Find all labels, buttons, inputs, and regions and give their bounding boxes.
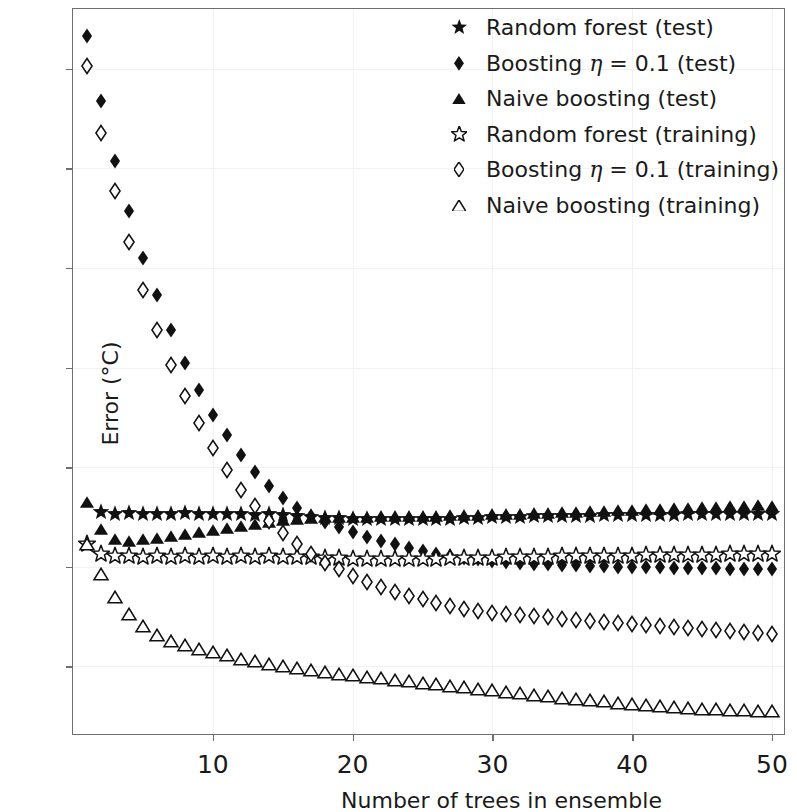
data-point — [166, 323, 176, 338]
data-point — [555, 507, 569, 519]
data-point — [318, 512, 332, 524]
data-point — [431, 546, 441, 561]
data-point — [152, 288, 162, 303]
data-point — [707, 506, 724, 523]
data-point — [138, 283, 148, 298]
data-point — [332, 511, 346, 523]
data-point — [417, 592, 427, 607]
data-point — [526, 548, 543, 565]
data-point — [711, 623, 721, 638]
data-point — [415, 510, 429, 522]
data-point — [557, 557, 567, 572]
data-point — [306, 508, 316, 523]
data-point — [218, 506, 235, 523]
data-point — [166, 357, 176, 372]
data-point — [220, 650, 234, 662]
x-tick-label: 30 — [452, 750, 532, 779]
data-point — [148, 505, 165, 522]
data-point — [374, 511, 388, 523]
legend-item-label: Naive boosting (test) — [486, 86, 717, 111]
data-point — [96, 94, 106, 109]
chart-legend: Random forest (test) Boosting η = 0.1 (t… — [432, 10, 784, 223]
data-point — [304, 513, 318, 525]
data-point — [401, 510, 415, 522]
data-point — [122, 608, 136, 620]
star-filled-icon — [432, 19, 486, 36]
data-point — [386, 510, 403, 527]
triangle-open-icon — [432, 200, 486, 211]
data-point — [194, 382, 204, 397]
data-point — [725, 624, 735, 639]
data-point — [400, 511, 417, 528]
data-point — [569, 693, 583, 705]
gridline-horizontal — [73, 368, 784, 369]
legend-item: Boosting η = 0.1 (test) — [432, 46, 784, 82]
data-point — [709, 703, 723, 715]
data-point — [389, 537, 399, 552]
data-point — [176, 548, 193, 565]
data-point — [711, 561, 721, 576]
data-point — [417, 543, 427, 558]
data-point — [318, 666, 332, 678]
data-point — [637, 506, 654, 523]
data-point — [403, 588, 413, 603]
data-point — [515, 608, 525, 623]
data-point — [164, 636, 178, 648]
data-point — [679, 506, 696, 523]
data-point — [651, 547, 668, 564]
data-point — [292, 500, 302, 515]
data-point — [753, 562, 763, 577]
data-point — [737, 500, 751, 512]
data-point — [610, 547, 627, 564]
data-point — [276, 515, 290, 527]
data-point — [292, 537, 302, 552]
data-point — [152, 323, 162, 338]
data-point — [262, 516, 276, 528]
data-point — [723, 501, 737, 513]
data-point — [388, 511, 402, 523]
data-point — [735, 506, 752, 523]
data-point — [358, 510, 375, 527]
data-point — [192, 526, 206, 538]
data-point — [134, 548, 151, 565]
data-point — [693, 506, 710, 523]
data-point — [610, 507, 627, 524]
data-point — [611, 697, 625, 709]
data-point — [473, 552, 483, 567]
data-point — [316, 549, 333, 566]
data-point — [665, 547, 682, 564]
data-point — [653, 700, 667, 712]
data-point — [302, 549, 319, 566]
data-point — [459, 550, 469, 565]
data-point — [611, 505, 625, 517]
data-point — [613, 616, 623, 631]
gridline-horizontal — [73, 567, 784, 568]
x-axis-label: Number of trees in ensemble — [145, 788, 797, 812]
data-point — [162, 548, 179, 565]
data-point — [260, 506, 277, 523]
data-point — [681, 702, 695, 714]
x-tick-label: 10 — [173, 750, 253, 779]
data-point — [362, 529, 372, 544]
data-point — [414, 510, 431, 527]
gridline-horizontal — [73, 666, 784, 667]
data-point — [386, 550, 403, 567]
y-axis-label: Error (°C) — [98, 194, 123, 594]
diamond-filled-icon — [432, 56, 486, 71]
data-point — [596, 547, 613, 564]
data-point — [681, 502, 695, 514]
data-point — [290, 663, 304, 675]
data-point — [222, 462, 232, 477]
legend-item: Naive boosting (test) — [432, 81, 784, 117]
data-point — [320, 555, 330, 570]
data-point — [597, 505, 611, 517]
data-point — [232, 548, 249, 565]
y-tick — [66, 666, 73, 667]
data-point — [585, 558, 595, 573]
legend-item-label: Boosting η = 0.1 (test) — [486, 51, 736, 76]
data-point — [501, 606, 511, 621]
data-point — [749, 506, 766, 523]
data-point — [264, 513, 274, 528]
data-point — [274, 548, 291, 565]
y-tick — [66, 268, 73, 269]
